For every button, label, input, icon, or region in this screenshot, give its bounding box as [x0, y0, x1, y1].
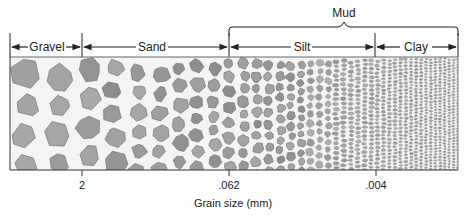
mud-brace — [229, 22, 458, 36]
tick-label-062: .062 — [218, 179, 239, 191]
axis-label: Grain size (mm) — [194, 197, 272, 209]
tick-label-004: .004 — [365, 179, 386, 191]
tick-label-2: 2 — [79, 179, 85, 191]
class-label-gravel: Gravel — [29, 40, 64, 54]
class-silt: Silt — [231, 40, 373, 54]
mud-label: Mud — [332, 6, 355, 20]
class-gravel: Gravel — [12, 40, 80, 54]
class-label-silt: Silt — [294, 40, 311, 54]
class-sand: Sand — [84, 40, 227, 54]
class-dividers — [10, 33, 458, 57]
axis-ticks — [82, 170, 376, 176]
class-label-sand: Sand — [138, 40, 166, 54]
class-label-clay: Clay — [404, 40, 428, 54]
grain-size-diagram: Mud Gravel Sand Silt Clay 2 .0 — [0, 0, 470, 220]
class-clay: Clay — [377, 40, 456, 54]
